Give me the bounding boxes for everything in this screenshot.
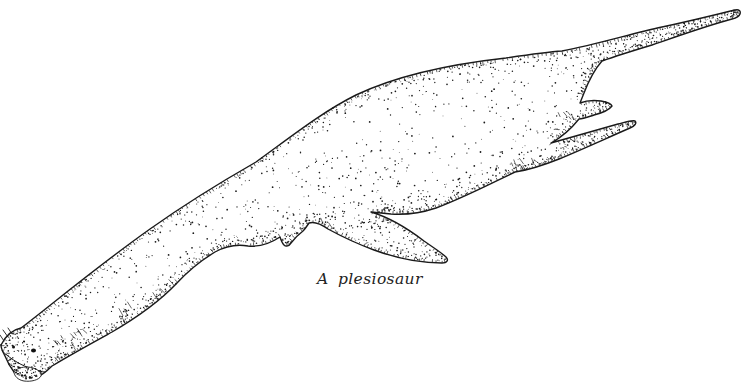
figure-caption: A plesiosaur [317, 270, 423, 288]
plesiosaur-illustration [0, 0, 752, 386]
eye [31, 348, 36, 352]
nostril-2 [23, 340, 25, 342]
figure-page: A plesiosaur [0, 0, 752, 386]
